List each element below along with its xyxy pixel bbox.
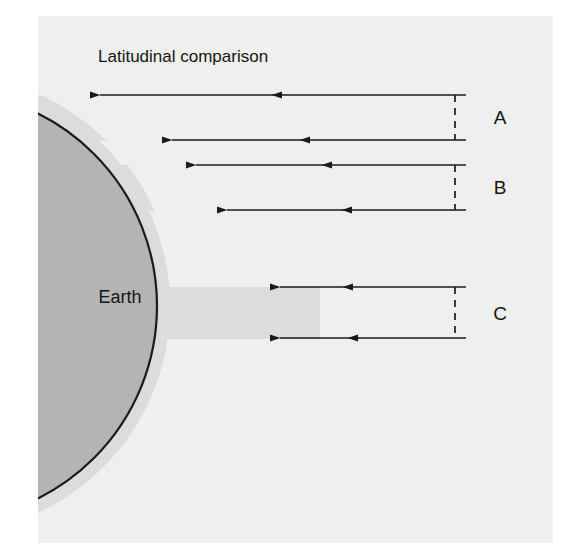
figure-title: Latitudinal comparison: [98, 47, 268, 66]
latitudinal-comparison-figure: Latitudinal comparison Earth A B C: [0, 0, 574, 559]
band-label-b: B: [494, 177, 507, 198]
band-label-a: A: [494, 107, 507, 128]
band-label-c: C: [493, 303, 507, 324]
earth-label: Earth: [98, 287, 141, 307]
